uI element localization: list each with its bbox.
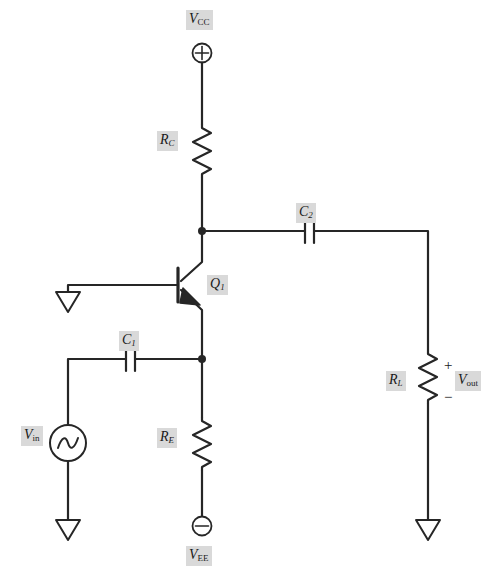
label-vcc: VCC <box>186 10 213 30</box>
label-vout: Vout <box>455 371 481 391</box>
vcc-terminal-symbol <box>193 44 212 63</box>
output-polarity-minus: − <box>444 390 452 405</box>
resistor-rc-symbol <box>193 124 211 178</box>
transistor-collector-lead <box>181 231 202 281</box>
label-q1: Q1 <box>207 275 228 295</box>
label-re: RE <box>157 428 177 448</box>
vee-terminal-symbol <box>193 517 212 536</box>
ground-load-symbol <box>416 520 440 540</box>
transistor-emitter-arrow <box>180 288 200 305</box>
label-vee: VEE <box>186 546 212 566</box>
resistor-re-symbol <box>193 417 211 471</box>
source-vin-symbol <box>50 425 86 461</box>
ground-source-symbol <box>56 520 80 540</box>
label-c1: C1 <box>119 331 139 351</box>
circuit-schematic-canvas <box>0 0 502 583</box>
label-c2: C2 <box>296 203 316 223</box>
ground-base-symbol <box>56 292 80 312</box>
capacitor-c1-symbol <box>126 348 135 371</box>
label-rc: RC <box>157 131 178 151</box>
label-vin: Vin <box>21 426 43 446</box>
label-rl: RL <box>386 371 406 391</box>
wire-c2-to-rl <box>314 231 428 350</box>
output-polarity-plus: + <box>444 358 452 373</box>
wire-base-to-ground <box>68 285 118 292</box>
circuit-diagram: VCC RC C2 Q1 C1 Vin RE VEE RL Vout + − <box>0 0 502 583</box>
resistor-rl-symbol <box>419 350 437 404</box>
wire-c1-to-vin <box>68 359 126 425</box>
